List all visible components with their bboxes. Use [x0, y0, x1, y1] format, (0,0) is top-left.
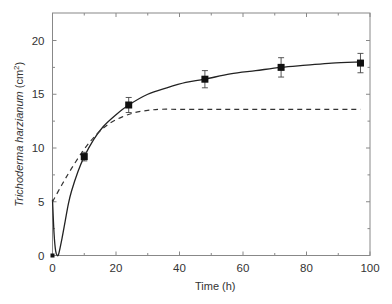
y-axis-label-close: ) [13, 62, 25, 66]
y-tick-label: 0 [38, 250, 44, 262]
x-tick-label: 80 [300, 262, 313, 274]
x-tick-label: 40 [173, 262, 186, 274]
y-axis-label-unit: (cm [13, 70, 25, 91]
square-marker [278, 64, 285, 71]
y-axis-label: Trichoderma harzianum (cm2) [12, 62, 25, 207]
data-point [201, 71, 208, 88]
data-point [125, 97, 132, 112]
plot-area-border [53, 13, 371, 256]
chart: 02040608010005101520 Time (h) Trichoderm… [0, 0, 392, 304]
y-axis-label-species: Trichoderma harzianum [13, 91, 25, 206]
y-tick-label: 15 [32, 88, 45, 100]
y-tick-label: 10 [32, 142, 45, 154]
square-marker [357, 60, 364, 67]
x-tick-label: 100 [360, 262, 379, 274]
x-tick-label: 0 [49, 262, 55, 274]
data-point [357, 53, 364, 72]
plot-frame [53, 13, 371, 256]
fit-curve-solid [53, 62, 361, 256]
x-tick-label: 20 [110, 262, 123, 274]
axis-ticks [53, 13, 371, 256]
data-series [51, 53, 364, 257]
square-marker [51, 254, 55, 258]
square-marker [81, 153, 88, 160]
data-point [51, 254, 55, 258]
data-point [81, 152, 88, 161]
square-marker [201, 76, 208, 83]
y-tick-label: 5 [38, 196, 44, 208]
data-point [278, 58, 285, 77]
square-marker [125, 102, 132, 109]
y-tick-label: 20 [32, 35, 45, 47]
x-tick-label: 60 [237, 262, 250, 274]
x-axis-label: Time (h) [195, 280, 236, 292]
fit-curve-dashed [53, 109, 361, 202]
